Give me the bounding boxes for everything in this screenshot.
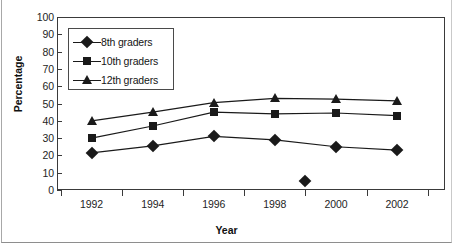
chart-screenshot: Percentage 1009080706050403020100 199219… (0, 0, 453, 245)
diamond-marker (81, 36, 94, 49)
square-marker (88, 134, 96, 142)
square-marker (271, 110, 279, 118)
square-marker (149, 122, 157, 130)
legend-sample (73, 53, 101, 69)
triangle-marker (331, 94, 341, 103)
triangle-marker (87, 116, 97, 125)
triangle-marker (209, 98, 219, 107)
triangle-marker (82, 75, 92, 84)
legend-item: 12th graders (69, 70, 175, 90)
triangle-marker (148, 107, 158, 116)
legend-label: 8th graders (101, 36, 152, 48)
series-line (92, 136, 398, 152)
chart-legend: 8th graders10th graders12th graders (68, 28, 174, 90)
legend-label: 10th graders (101, 55, 158, 67)
square-marker (210, 108, 218, 116)
legend-label: 12th graders (101, 74, 158, 86)
legend-item: 10th graders (69, 51, 175, 71)
series-line (92, 98, 398, 120)
triangle-marker (392, 96, 402, 105)
triangle-marker (270, 93, 280, 102)
legend-sample (73, 72, 101, 88)
series-line (92, 112, 398, 138)
legend-sample (73, 34, 101, 50)
square-marker (83, 57, 91, 65)
line-chart: Percentage 1009080706050403020100 199219… (0, 0, 453, 245)
legend-item: 8th graders (69, 32, 175, 52)
square-marker (393, 112, 401, 120)
square-marker (332, 109, 340, 117)
